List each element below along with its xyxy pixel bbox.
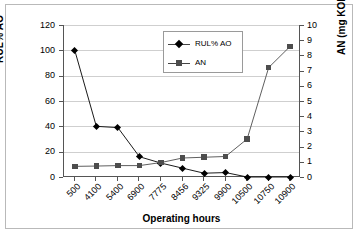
secondary-y-axis-title: AN (mg KOH/g oil): [336, 0, 347, 55]
secondary-y-axis-tick-label: 0: [307, 173, 329, 182]
square-marker-icon: [266, 65, 272, 71]
square-marker-icon: [180, 155, 186, 161]
y-axis-tick: [59, 177, 63, 178]
secondary-y-axis-tick-label: 2: [307, 142, 329, 151]
square-marker-icon: [223, 154, 229, 160]
secondary-y-axis-tick-label: 7: [307, 66, 329, 75]
square-marker-icon: [244, 136, 250, 142]
secondary-y-axis-tick-label: 10: [307, 21, 329, 30]
diamond-marker-icon: [175, 40, 183, 48]
y-axis-tick-label: 120: [25, 21, 55, 30]
secondary-y-axis-tick-label: 5: [307, 97, 329, 106]
legend-item-an: AN: [168, 57, 242, 69]
x-axis-title: Operating hours: [63, 213, 300, 224]
chart-frame: RUL% AO AN (mg KOH/g oil) Operating hour…: [5, 4, 353, 229]
secondary-y-axis-tick-label: 3: [307, 127, 329, 136]
legend-item-rul: RUL% AO: [168, 38, 242, 50]
y-axis-tick-label: 20: [25, 147, 55, 156]
square-marker-icon: [115, 163, 121, 169]
legend-label-rul: RUL% AO: [195, 38, 231, 50]
secondary-y-axis-tick-label: 9: [307, 36, 329, 45]
secondary-y-axis-tick: [300, 177, 304, 178]
square-marker-icon: [94, 163, 100, 169]
square-marker-icon: [287, 44, 293, 50]
secondary-y-axis-tick-label: 8: [307, 51, 329, 60]
y-axis-tick-label: 80: [25, 71, 55, 80]
secondary-y-axis-tick-label: 6: [307, 81, 329, 90]
square-marker-icon: [137, 163, 143, 169]
legend-label-an: AN: [195, 57, 206, 69]
y-axis-title: RUL% AO: [0, 0, 5, 63]
y-axis-tick-label: 40: [25, 122, 55, 131]
secondary-y-axis-tick-label: 1: [307, 157, 329, 166]
y-axis-tick-label: 0: [25, 173, 55, 182]
square-marker-icon: [201, 154, 207, 160]
legend: RUL% AO AN: [163, 31, 243, 73]
square-marker-icon: [72, 164, 78, 170]
square-marker-icon: [158, 160, 164, 166]
y-axis-tick-label: 100: [25, 46, 55, 55]
square-marker-icon: [176, 60, 182, 66]
y-axis-tick-label: 60: [25, 97, 55, 106]
secondary-y-axis-tick-label: 4: [307, 112, 329, 121]
